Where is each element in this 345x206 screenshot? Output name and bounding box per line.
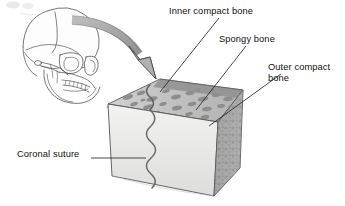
label-inner-compact-bone: Inner compact bone xyxy=(169,6,253,17)
bone-structure-figure: Inner compact bone Spongy bone Outer com… xyxy=(0,0,345,206)
label-spongy-bone: Spongy bone xyxy=(219,34,275,45)
label-outer-compact-bone: Outer compact bone xyxy=(268,62,330,85)
label-coronal-suture: Coronal suture xyxy=(17,149,79,160)
scan-artifact xyxy=(6,2,36,15)
diagram-canvas xyxy=(0,0,345,206)
bone-block xyxy=(106,79,243,196)
leader-inner-compact xyxy=(160,18,219,92)
